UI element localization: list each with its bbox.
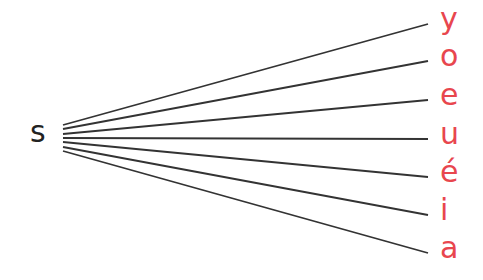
target-letter-5: i: [440, 195, 448, 225]
target-letter-3: u: [440, 119, 459, 149]
connection-line: [63, 147, 428, 215]
connection-line: [63, 100, 428, 134]
connection-line: [63, 138, 428, 139]
connection-line: [63, 61, 428, 129]
target-letter-0: y: [440, 4, 458, 34]
source-letter: s: [30, 117, 46, 147]
target-letter-1: o: [440, 41, 458, 71]
connection-lines: [0, 0, 483, 280]
target-letter-2: e: [440, 80, 458, 110]
connection-line: [63, 151, 428, 253]
target-letter-4: é: [440, 157, 458, 187]
target-letter-6: a: [440, 233, 458, 263]
connection-line: [63, 142, 428, 177]
connection-line: [63, 24, 428, 125]
